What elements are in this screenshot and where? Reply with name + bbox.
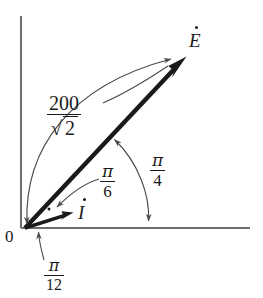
angle-pi-6-vertex-dot: [48, 208, 51, 211]
magnitude-denominator: √2: [47, 115, 81, 138]
origin-label: 0: [5, 228, 14, 245]
current-symbol-text: I: [78, 202, 84, 223]
current-phasor-label: I: [78, 203, 84, 222]
radicand: 2: [63, 116, 78, 138]
voltage-symbol-text: E: [189, 30, 201, 51]
voltage-phasor-label: E: [189, 31, 201, 50]
angle-pi-12-numerator: π: [44, 258, 64, 276]
magnitude-arc: [27, 59, 171, 224]
angle-pi-6-label: π 6: [100, 163, 115, 200]
magnitude-numerator: 200: [47, 93, 81, 115]
voltage-phasor-arrow: [25, 57, 187, 229]
phasor-diagram: E I 0 200 √2 π 6 π 4 π 12: [0, 0, 263, 298]
angle-pi-4-denominator: 4: [150, 171, 165, 189]
angle-pi-6-denominator: 6: [100, 182, 115, 200]
angle-pi-12-denominator: 12: [44, 276, 64, 293]
angle-pi-12-pointer: [39, 232, 45, 260]
angle-pi-6-numerator: π: [100, 163, 115, 182]
angle-pi-4-arc: [115, 140, 149, 222]
angle-pi-12-label: π 12: [44, 258, 64, 293]
diagram-canvas: [0, 0, 263, 298]
angle-pi-4-numerator: π: [150, 152, 165, 171]
magnitude-label: 200 √2: [47, 93, 81, 138]
radical-sign: √: [51, 117, 62, 139]
angle-pi-4-label: π 4: [150, 152, 165, 189]
